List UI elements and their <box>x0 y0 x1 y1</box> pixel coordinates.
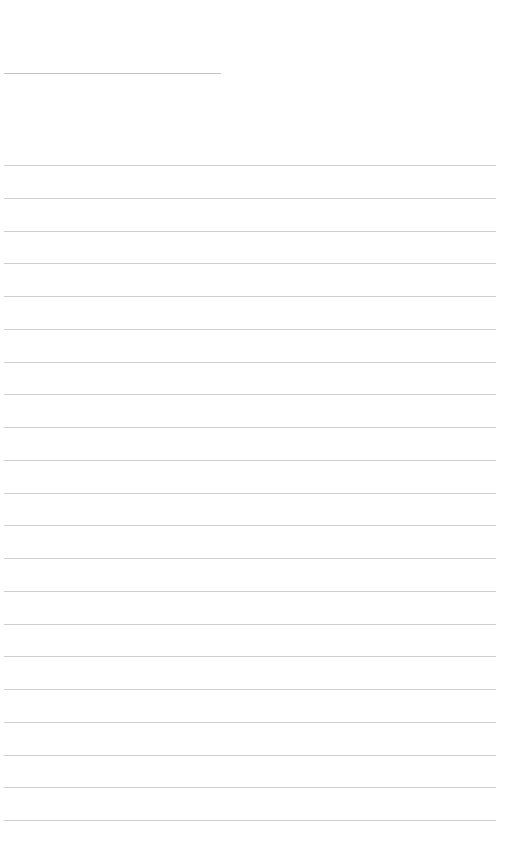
ruled-line <box>4 427 496 428</box>
ruled-line <box>4 165 496 166</box>
ruled-line <box>4 558 496 559</box>
lined-paper-page <box>0 0 532 858</box>
ruled-line <box>4 198 496 199</box>
ruled-line <box>4 296 496 297</box>
ruled-line <box>4 231 496 232</box>
ruled-line <box>4 362 496 363</box>
ruled-line <box>4 722 496 723</box>
ruled-line <box>4 656 496 657</box>
ruled-line <box>4 820 496 821</box>
ruled-line <box>4 493 496 494</box>
ruled-line <box>4 689 496 690</box>
ruled-line <box>4 460 496 461</box>
ruled-line <box>4 394 496 395</box>
ruled-line <box>4 329 496 330</box>
title-line <box>4 73 221 74</box>
ruled-line <box>4 755 496 756</box>
ruled-line <box>4 591 496 592</box>
ruled-line <box>4 624 496 625</box>
ruled-line <box>4 525 496 526</box>
ruled-line <box>4 263 496 264</box>
ruled-line <box>4 787 496 788</box>
